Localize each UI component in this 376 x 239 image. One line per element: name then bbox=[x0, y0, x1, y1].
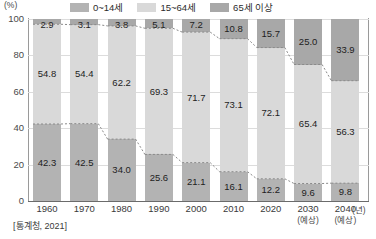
x-axis-year-1990: 1990 bbox=[148, 203, 169, 214]
y-tick-80: 80 bbox=[13, 51, 24, 61]
bar-segment-65-plus-2020: 15.7 bbox=[257, 19, 285, 48]
y-tick-40: 40 bbox=[13, 123, 24, 133]
bar-value-0-14-1960: 42.3 bbox=[38, 158, 57, 168]
bar-segment-15-64-1980: 62.2 bbox=[108, 26, 136, 139]
legend-swatch-15-64 bbox=[137, 3, 156, 12]
bar-segment-15-64-2000: 71.7 bbox=[182, 32, 210, 162]
legend-item-65-plus: 65세 이상 bbox=[210, 3, 273, 13]
bar-value-65-plus-2030: 25.0 bbox=[299, 37, 318, 47]
bar-2040: 33.956.39.8 bbox=[331, 19, 359, 201]
bar-value-0-14-2040: 9.8 bbox=[339, 187, 352, 197]
bar-segment-15-64-1970: 54.4 bbox=[70, 25, 98, 124]
bar-segment-65-plus-2000: 7.2 bbox=[182, 19, 210, 32]
bar-value-65-plus-1980: 3.8 bbox=[115, 20, 128, 30]
bar-segment-15-64-2020: 72.1 bbox=[257, 48, 285, 179]
bar-segment-15-64-1960: 54.8 bbox=[33, 24, 61, 124]
bar-value-65-plus-2020: 15.7 bbox=[262, 29, 281, 39]
bar-segment-15-64-2040: 56.3 bbox=[331, 81, 359, 183]
y-tick-60: 60 bbox=[13, 87, 24, 97]
bar-segment-0-14-1970: 42.5 bbox=[70, 124, 98, 201]
bar-value-15-64-2030: 65.4 bbox=[299, 119, 318, 129]
bar-segment-0-14-2030: 9.6 bbox=[294, 184, 322, 201]
bar-series-container: 2.954.842.33.154.442.53.862.234.05.169.3… bbox=[28, 18, 369, 202]
bar-segment-65-plus-2040: 33.9 bbox=[331, 19, 359, 81]
x-axis-year-1970: 1970 bbox=[74, 203, 95, 214]
bar-segment-0-14-1960: 42.3 bbox=[33, 124, 61, 201]
legend-item-15-64: 15~64세 bbox=[137, 3, 196, 13]
y-axis-unit-label: (%) bbox=[4, 1, 17, 10]
legend-label-65-plus: 65세 이상 bbox=[233, 3, 273, 13]
legend-swatch-0-14 bbox=[70, 3, 89, 12]
bar-2020: 15.772.112.2 bbox=[257, 19, 285, 201]
bar-value-0-14-1980: 34.0 bbox=[112, 165, 131, 175]
y-tick-20: 20 bbox=[13, 160, 24, 170]
bar-value-0-14-2000: 21.1 bbox=[187, 177, 206, 187]
bar-1960: 2.954.842.3 bbox=[33, 19, 61, 201]
bar-segment-65-plus-1980: 3.8 bbox=[108, 19, 136, 26]
bar-1970: 3.154.442.5 bbox=[70, 19, 98, 201]
legend-item-0-14: 0~14세 bbox=[70, 3, 123, 13]
x-axis-labels: 19601970198019902000201020202030(예상)2040… bbox=[28, 203, 369, 237]
bar-segment-0-14-2020: 12.2 bbox=[257, 179, 285, 201]
chart-legend: 0~14세 15~64세 65세 이상 bbox=[70, 1, 273, 14]
bar-segment-15-64-1990: 69.3 bbox=[145, 28, 173, 154]
bar-value-15-64-1990: 69.3 bbox=[150, 87, 169, 97]
bar-1990: 5.169.325.6 bbox=[145, 19, 173, 201]
population-age-structure-chart: (%) 0~14세 15~64세 65세 이상 100 80 60 40 20 … bbox=[0, 0, 376, 239]
bar-segment-0-14-2040: 9.8 bbox=[331, 183, 359, 201]
bar-value-15-64-2000: 71.7 bbox=[187, 93, 206, 103]
bar-value-65-plus-1990: 5.1 bbox=[152, 20, 165, 30]
bar-value-65-plus-1970: 3.1 bbox=[78, 20, 91, 30]
x-axis-year-2020: 2020 bbox=[260, 203, 281, 214]
x-axis-unit-label: (년) bbox=[352, 206, 366, 215]
bar-value-65-plus-1960: 2.9 bbox=[40, 20, 53, 30]
bar-value-65-plus-2000: 7.2 bbox=[190, 20, 203, 30]
x-axis-note-2040: (예상) bbox=[322, 215, 368, 226]
bar-value-15-64-1970: 54.4 bbox=[75, 69, 94, 79]
x-axis-year-2030: 2030 bbox=[298, 203, 319, 214]
bar-segment-65-plus-2010: 10.8 bbox=[220, 19, 248, 39]
bar-segment-15-64-2010: 73.1 bbox=[220, 39, 248, 172]
x-axis-year-1980: 1980 bbox=[111, 203, 132, 214]
bar-value-0-14-1990: 25.6 bbox=[150, 173, 169, 183]
y-axis-ticks: 100 80 60 40 20 0 bbox=[0, 18, 28, 202]
bar-segment-0-14-2000: 21.1 bbox=[182, 163, 210, 201]
bar-value-15-64-2020: 72.1 bbox=[262, 108, 281, 118]
bar-value-0-14-1970: 42.5 bbox=[75, 158, 94, 168]
bar-value-65-plus-2010: 10.8 bbox=[224, 24, 243, 34]
bar-value-65-plus-2040: 33.9 bbox=[336, 45, 355, 55]
bar-2000: 7.271.721.1 bbox=[182, 19, 210, 201]
source-note: [통계청, 2021] bbox=[13, 222, 67, 231]
bar-value-0-14-2020: 12.2 bbox=[262, 185, 281, 195]
bar-value-0-14-2030: 9.6 bbox=[301, 188, 314, 198]
bar-segment-0-14-1990: 25.6 bbox=[145, 154, 173, 201]
x-axis-year-2000: 2000 bbox=[186, 203, 207, 214]
legend-label-0-14: 0~14세 bbox=[93, 3, 123, 13]
bar-1980: 3.862.234.0 bbox=[108, 19, 136, 201]
x-axis-year-1960: 1960 bbox=[36, 203, 57, 214]
bar-segment-0-14-1980: 34.0 bbox=[108, 139, 136, 201]
legend-swatch-65-plus bbox=[210, 3, 229, 12]
bar-segment-0-14-2010: 16.1 bbox=[220, 172, 248, 201]
bar-value-0-14-2010: 16.1 bbox=[224, 182, 243, 192]
plot-area: 2.954.842.33.154.442.53.862.234.05.169.3… bbox=[28, 18, 369, 202]
bar-segment-65-plus-2030: 25.0 bbox=[294, 19, 322, 65]
bar-value-15-64-1960: 54.8 bbox=[38, 69, 57, 79]
bar-segment-15-64-2030: 65.4 bbox=[294, 65, 322, 184]
bar-segment-65-plus-1990: 5.1 bbox=[145, 19, 173, 28]
y-tick-100: 100 bbox=[8, 14, 24, 24]
bar-value-15-64-1980: 62.2 bbox=[112, 78, 131, 88]
legend-label-15-64: 15~64세 bbox=[160, 3, 196, 13]
bar-value-15-64-2040: 56.3 bbox=[336, 127, 355, 137]
bar-2010: 10.873.116.1 bbox=[220, 19, 248, 201]
x-axis-year-2010: 2010 bbox=[223, 203, 244, 214]
bar-value-15-64-2010: 73.1 bbox=[224, 100, 243, 110]
bar-2030: 25.065.49.6 bbox=[294, 19, 322, 201]
